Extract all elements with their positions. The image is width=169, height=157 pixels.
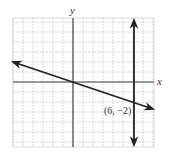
point-label: (6, −2) <box>104 105 131 117</box>
x-axis-label: x <box>156 75 162 87</box>
coordinate-graph: y x (6, −2) <box>0 0 169 157</box>
y-axis-label: y <box>69 4 75 16</box>
